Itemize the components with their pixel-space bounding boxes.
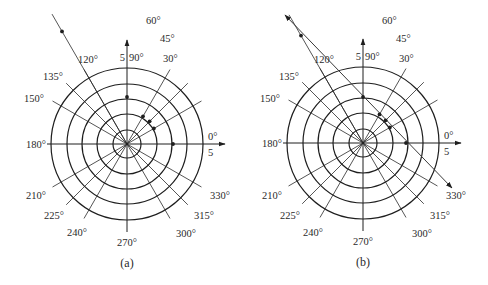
angle-label-120: 120° [314,54,334,65]
angle-label-150: 150° [24,93,44,104]
ray-240 [320,143,363,217]
angle-label-60: 60° [382,15,397,26]
data-point [152,127,156,131]
angle-label-30: 30° [399,53,414,64]
angle-label-45: 45° [160,33,175,44]
angle-label-0: 0° [208,131,217,142]
angle-label-240: 240° [303,227,323,238]
axis-value-right: 5 [444,146,449,157]
data-point [171,142,175,146]
axis-value-right: 5 [208,147,213,158]
angle-label-0: 0° [444,130,453,141]
data-point [378,113,382,117]
ray-330 [363,143,437,186]
angle-label-90: 90° [365,51,380,62]
angle-label-270: 270° [117,237,137,248]
polar-plot-a: 30°45°60°120°135°150°210°225°240°300°315… [24,14,230,270]
angle-label-180: 180° [26,139,46,150]
ray-300 [127,144,170,218]
angle-label-330: 330° [446,190,466,201]
ray-60 [363,69,406,143]
angle-label-150: 150° [260,93,280,104]
angle-label-300: 300° [176,228,196,239]
data-point [384,118,388,122]
ray-210 [289,143,363,186]
angle-label-45: 45° [396,33,411,44]
polar-plot-b: 30°45°60°120°135°150°210°225°240°300°315… [260,15,466,269]
panel-caption-b: (b) [356,255,370,269]
angle-label-135: 135° [43,71,63,82]
ray-30 [363,100,437,143]
data-point [148,119,152,123]
polar-diagram-figure: 30°45°60°120°135°150°210°225°240°300°315… [0,0,488,285]
angle-label-240: 240° [67,227,87,238]
ray-150 [289,100,363,143]
axis-value-top: 5 [120,52,125,63]
extended-ray-120 [52,14,127,144]
data-point [388,126,392,130]
angle-label-315: 315° [430,210,450,221]
ray-150 [53,101,127,144]
data-point [361,95,365,99]
angle-label-225: 225° [280,210,300,221]
angle-label-225: 225° [44,210,64,221]
angle-label-315: 315° [194,210,214,221]
data-point [141,114,145,118]
data-point [404,141,408,145]
angle-label-180: 180° [262,138,282,149]
data-point [299,34,303,38]
ray-300 [363,143,406,217]
data-point [60,30,64,34]
angle-label-270: 270° [353,236,373,247]
angle-label-330: 330° [210,190,230,201]
angle-label-120: 120° [78,54,98,65]
angle-label-135: 135° [279,71,299,82]
angle-label-90: 90° [129,52,144,63]
ray-60 [127,70,170,144]
angle-label-210: 210° [262,190,282,201]
ray-240 [84,144,127,218]
ray-330 [127,144,201,187]
ray-210 [53,144,127,187]
ray-30 [127,101,201,144]
angle-label-30: 30° [163,53,178,64]
data-point [125,95,129,99]
angle-label-300: 300° [412,228,432,239]
angle-label-210: 210° [26,190,46,201]
axis-value-top: 5 [356,51,361,62]
panel-caption-a: (a) [120,256,133,270]
angle-label-60: 60° [146,15,161,26]
